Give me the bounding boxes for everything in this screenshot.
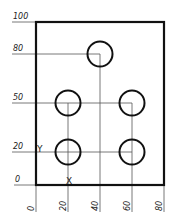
y-leader-lines xyxy=(12,22,132,185)
label-y-0: 0 xyxy=(15,175,20,184)
label-y-50: 50 xyxy=(13,93,23,102)
label-x-60: 60 xyxy=(123,201,132,211)
axis-label-y: Y xyxy=(36,144,43,154)
axis-label-x: X xyxy=(66,176,72,186)
label-y-80: 80 xyxy=(13,44,23,53)
label-x-80: 80 xyxy=(155,201,164,211)
label-y-20: 20 xyxy=(13,142,23,151)
drawing-canvas: 100 80 50 20 0 0 20 40 60 80 Y X xyxy=(0,0,173,220)
x-leader-lines xyxy=(36,54,164,212)
label-x-40: 40 xyxy=(91,201,100,211)
label-y-100: 100 xyxy=(13,12,28,21)
label-x-20: 20 xyxy=(59,201,68,211)
label-x-0: 0 xyxy=(27,206,36,211)
